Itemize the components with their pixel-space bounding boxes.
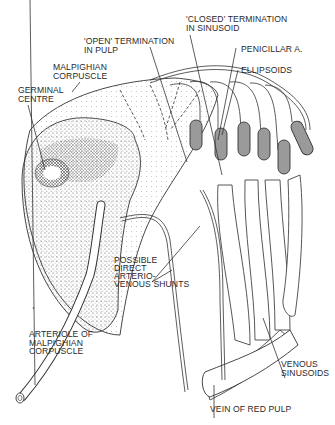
ellipsoids (190, 119, 315, 174)
label-closed-termination: 'CLOSED' TERMINATION IN SINUSOID (186, 14, 290, 33)
ellipsoid (278, 140, 290, 174)
label-venous-sinusoids: VENOUS SINUSOIDS (281, 359, 329, 378)
label-open-termination: 'OPEN' TERMINATION IN PULP (84, 36, 177, 55)
ellipsoid (258, 128, 270, 160)
label-penicillar: PENICILLAR A. (241, 44, 302, 54)
label-arteriole: ARTERIOLE OF MALPIGHIAN CORPUSCLE (29, 329, 96, 356)
germinal-centre (35, 159, 69, 187)
label-ellipsoids: ELLIPSOIDS (241, 65, 292, 75)
label-vein-of-red-pulp: VEIN OF RED PULP (210, 404, 292, 414)
spleen-diagram: 'OPEN' TERMINATION IN PULP 'CLOSED' TERM… (0, 0, 335, 425)
label-shunts: POSSIBLE DIRECT ARTERIO- VENOUS SHUNTS (114, 255, 189, 289)
ellipsoid (289, 119, 315, 157)
label-malpighian-corpuscle: MALPIGHIAN CORPUSCLE (53, 62, 110, 81)
ellipsoid (215, 128, 227, 160)
malpighian-corpuscle (22, 78, 218, 335)
label-germinal-centre: GERMINAL CENTRE (18, 85, 66, 104)
ellipsoid (238, 122, 250, 156)
ellipsoid (190, 120, 202, 150)
